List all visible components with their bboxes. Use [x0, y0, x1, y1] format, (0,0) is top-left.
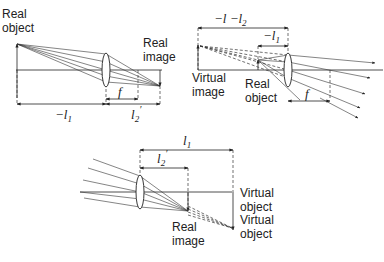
- virtual-image-label: Virtualimage: [192, 71, 226, 99]
- incident-rays: [17, 44, 106, 82]
- object-distance-label-2: −l1: [263, 28, 280, 45]
- object-distance-label: −l1: [55, 107, 72, 124]
- virtual-object-label-2: Virtualobject: [240, 213, 274, 241]
- diagram-converging-lens-real-image: f −l1 l2′ Realobject Realimage: [2, 7, 176, 124]
- incoming-rays-3: [80, 159, 140, 207]
- diagram-virtual-object-real-image: l1 l2′ Realimage Virtualobject Virtualob…: [80, 133, 274, 248]
- object-distance-label-3: l1: [183, 133, 191, 150]
- focal-length-label: f: [118, 84, 124, 99]
- image-distance-label-3: l2′: [157, 148, 168, 168]
- converging-lens: [102, 53, 110, 87]
- real-image-label-3: Realimage: [172, 220, 205, 248]
- focal-length-label-2: f: [305, 86, 311, 101]
- converging-rays-3: [140, 176, 188, 211]
- diagram-virtual-image-real-object: −l −l2 −l1 f Virtualimage Realobject: [192, 11, 383, 118]
- real-object-label-2: Realobject: [245, 77, 278, 105]
- image-distance-label: l2′: [131, 104, 142, 124]
- virtual-object-label-1: Virtualobject: [240, 186, 274, 214]
- converging-lens-2: [284, 53, 292, 87]
- converging-lens-3: [136, 175, 144, 209]
- total-distance-label: −l −l2: [214, 11, 247, 28]
- diverging-rays: [288, 55, 375, 118]
- real-object-label: Realobject: [2, 7, 35, 35]
- real-image-label: Realimage: [143, 36, 176, 64]
- optics-diagram-canvas: f −l1 l2′ Realobject Realimage: [0, 0, 384, 262]
